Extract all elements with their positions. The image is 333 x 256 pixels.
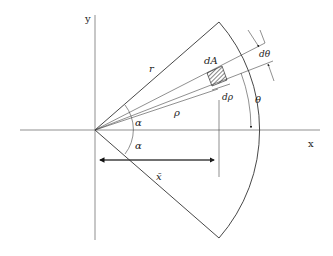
- alpha-lower-label: α: [135, 140, 142, 151]
- rho-ray: [95, 89, 218, 130]
- x-axis-label: x: [308, 138, 314, 149]
- alpha-upper-label: α: [135, 117, 142, 128]
- drho-label: dρ: [222, 92, 234, 102]
- xbar-label: x̄: [156, 171, 162, 182]
- sector-diagram: y x r dA dθ dρ ρ θ α α x̄: [0, 0, 333, 256]
- dtheta-label: dθ: [259, 49, 271, 59]
- theta-label: θ: [255, 94, 261, 105]
- element-ray-lower: [95, 61, 273, 130]
- area-element-dA: [207, 66, 227, 86]
- radius-label: r: [149, 63, 155, 74]
- dA-label: dA: [204, 55, 218, 66]
- y-axis-label: y: [84, 13, 91, 24]
- theta-arc: [241, 73, 251, 128]
- rho-label: ρ: [173, 107, 180, 118]
- sector-lower-radius: [95, 130, 219, 238]
